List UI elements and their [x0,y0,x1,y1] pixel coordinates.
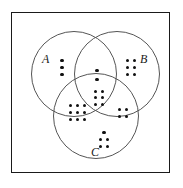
element-dot [101,90,104,93]
element-dot [94,96,97,99]
element-dot [133,73,136,76]
element-dot [95,69,98,72]
dot-region-ac-only [67,102,88,123]
element-dot [118,108,121,111]
element-dot [133,59,136,62]
venn-diagram-figure: A B C [0,0,183,188]
element-dot [94,90,97,93]
element-dot [94,103,97,106]
diagram-frame: A B C [11,12,170,173]
element-dot [133,66,136,69]
element-dot [99,145,102,148]
dot-region-ab-only [94,66,100,84]
set-label-b: B [140,53,147,65]
element-dot [76,118,79,121]
element-dot [106,138,109,141]
element-dot [126,73,129,76]
element-dot [69,111,72,114]
element-dot [76,111,79,114]
element-dot [95,78,98,81]
element-dot [125,115,128,118]
dot-region-b-only [124,57,138,78]
dot-region-bc-only [116,106,130,120]
dot-region-c-only-grid [97,136,111,150]
dot-region-a-only [59,57,65,78]
element-dot [60,66,63,69]
element-dot [69,104,72,107]
element-dot [102,131,105,134]
element-dot [106,145,109,148]
element-dot [83,111,86,114]
set-label-a: A [42,53,49,65]
dot-region-abc [92,88,106,108]
element-dot [83,104,86,107]
element-dot [118,115,121,118]
element-dot [60,73,63,76]
element-dot [101,96,104,99]
element-dot [83,118,86,121]
dot-region-c-only-top [101,129,107,136]
element-dot [126,59,129,62]
element-dot [99,138,102,141]
element-dot [69,118,72,121]
element-dot [101,103,104,106]
element-dot [76,104,79,107]
element-dot [125,108,128,111]
element-dot [126,66,129,69]
element-dot [60,59,63,62]
